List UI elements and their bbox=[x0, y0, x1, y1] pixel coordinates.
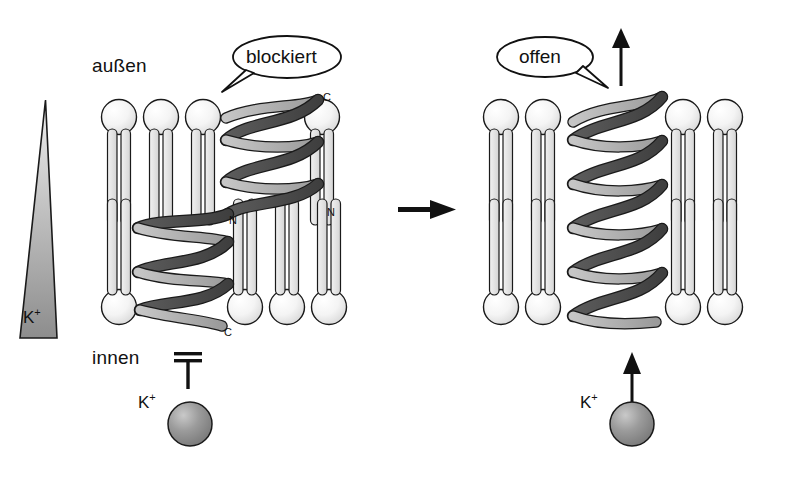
inner-leaflet-lipids-left-open bbox=[484, 199, 561, 325]
wedge-k-element: K bbox=[23, 308, 34, 327]
k-ion-charge-open: + bbox=[591, 391, 597, 403]
bubble-label-offen: offen bbox=[519, 47, 561, 66]
terminus-c-outer: C bbox=[323, 92, 331, 103]
k-ion-charge-blocked: + bbox=[149, 391, 155, 403]
bubble-label-blockiert: blockiert bbox=[246, 47, 317, 66]
k-ion-label-open: K+ bbox=[580, 392, 598, 411]
wedge-k-label: K+ bbox=[23, 307, 41, 326]
outer-helix bbox=[226, 100, 318, 214]
k-ion-label-blocked: K+ bbox=[138, 392, 156, 411]
inner-helix bbox=[138, 214, 228, 326]
terminus-c-inner: C bbox=[224, 327, 232, 338]
inner-leaflet-lipids-left bbox=[102, 199, 137, 325]
k-ion-sphere-open bbox=[610, 402, 654, 446]
open-panel bbox=[484, 28, 743, 446]
open-flux-arrow bbox=[623, 352, 641, 404]
efflux-arrow-top bbox=[612, 28, 630, 86]
pore-helix bbox=[573, 97, 662, 324]
k-ion-element-blocked: K bbox=[138, 393, 149, 412]
k-gradient-wedge bbox=[20, 100, 57, 338]
k-ion-sphere-blocked bbox=[168, 402, 212, 446]
inner-leaflet-lipids-right-open bbox=[666, 199, 743, 325]
label-outside: außen bbox=[92, 56, 147, 75]
terminus-n-outer: N bbox=[327, 207, 335, 218]
transition-arrow bbox=[398, 200, 456, 219]
k-ion-element-open: K bbox=[580, 393, 591, 412]
blocked-panel bbox=[102, 36, 347, 446]
diagram-canvas: außen innen blockiert offen C N N C K+ K… bbox=[0, 0, 788, 477]
outer-leaflet-lipids-left bbox=[102, 100, 221, 226]
wedge-k-charge: + bbox=[34, 306, 40, 318]
label-inside: innen bbox=[92, 348, 140, 367]
blocked-flux-symbol bbox=[174, 352, 202, 389]
terminus-n-inner: N bbox=[229, 215, 237, 226]
